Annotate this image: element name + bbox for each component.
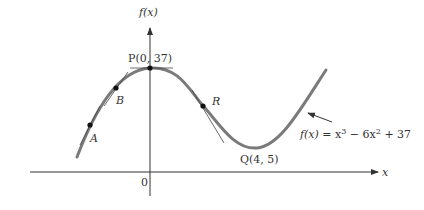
x-axis-label: x <box>382 166 389 179</box>
y-axis-label: f(x) <box>138 6 158 19</box>
point-R-label: R <box>211 95 220 108</box>
function-label: f(x) = x3 − 6x2 + 37 <box>299 127 411 141</box>
graph-canvas: f(x) x 0 A B P(0, 37) R Q(4, 5) f(x) = x… <box>0 0 424 210</box>
point-P <box>147 65 152 70</box>
curve-label-arrow <box>308 113 332 122</box>
point-B-label: B <box>115 94 124 107</box>
point-Q-label: Q(4, 5) <box>240 153 279 166</box>
point-A-label: A <box>89 132 98 145</box>
point-A <box>87 122 92 127</box>
point-R <box>200 103 205 108</box>
point-B <box>113 85 118 90</box>
cubic-curve <box>77 68 326 157</box>
origin-label: 0 <box>141 176 148 189</box>
point-P-label: P(0, 37) <box>128 52 172 65</box>
